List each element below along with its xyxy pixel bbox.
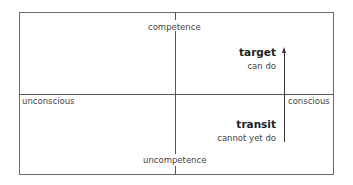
transit-title: transit: [236, 119, 276, 129]
vertical-axis-line-top: [175, 12, 176, 20]
axis-label-uncompetence: uncompetence: [143, 155, 206, 165]
progress-arrow: [284, 49, 285, 142]
target-title: target: [239, 47, 276, 57]
vertical-axis-line-middle: [175, 31, 176, 154]
vertical-axis-line-bottom: [175, 166, 176, 175]
arrow-up-icon: [282, 47, 286, 53]
axis-label-unconscious: unconscious: [22, 96, 75, 106]
transit-subtitle: cannot yet do: [217, 133, 276, 143]
target-subtitle: can do: [247, 61, 276, 71]
axis-label-conscious: conscious: [288, 96, 330, 106]
axis-label-competence: competence: [148, 22, 201, 32]
